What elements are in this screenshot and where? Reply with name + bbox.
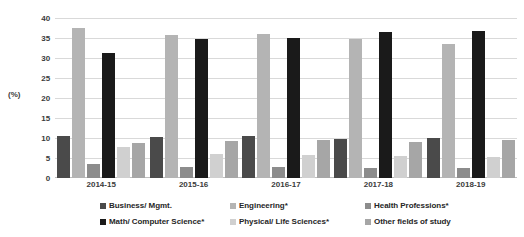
legend-item[interactable]: Physical/ Life Sciences*	[230, 217, 329, 226]
bar	[409, 142, 422, 178]
legend-row-2: Math/ Computer Science*Physical/ Life Sc…	[0, 214, 524, 229]
legend-label: Math/ Computer Science*	[109, 217, 204, 226]
bar	[102, 53, 115, 178]
bar	[457, 168, 470, 178]
y-axis-tick-label: 0	[6, 174, 50, 183]
bar-group	[332, 18, 424, 178]
bar	[287, 38, 300, 178]
chart-legend: Business/ Mgmt.Engineering*Health Profes…	[0, 198, 524, 232]
legend-label: Engineering*	[239, 201, 288, 210]
legend-label: Physical/ Life Sciences*	[239, 217, 329, 226]
y-axis-tick-label: 35	[6, 34, 50, 43]
bar	[472, 31, 485, 178]
x-axis-tick-label: 2016-17	[271, 180, 300, 189]
legend-row-1: Business/ Mgmt.Engineering*Health Profes…	[0, 198, 524, 213]
bar	[349, 39, 362, 178]
legend-swatch-icon	[365, 219, 371, 225]
bar	[117, 147, 130, 178]
bar	[317, 140, 330, 178]
x-axis-tick-label: 2017-18	[364, 180, 393, 189]
bar	[334, 139, 347, 178]
legend-swatch-icon	[100, 219, 106, 225]
bar-group	[147, 18, 239, 178]
legend-item[interactable]: Other fields of study	[365, 217, 451, 226]
legend-label: Health Professions*	[374, 201, 449, 210]
y-axis-tick-label: 15	[6, 114, 50, 123]
bar	[165, 35, 178, 178]
bar	[302, 155, 315, 178]
bar	[242, 136, 255, 178]
legend-item[interactable]: Math/ Computer Science*	[100, 217, 204, 226]
x-axis: 2014-152015-162016-172017-182018-19	[55, 180, 517, 194]
legend-item[interactable]: Health Professions*	[365, 201, 449, 210]
bar	[57, 136, 70, 178]
bar	[487, 157, 500, 178]
bar	[442, 44, 455, 178]
bar	[502, 140, 515, 178]
y-axis: 0510152025303540	[0, 18, 50, 178]
bar-group	[425, 18, 517, 178]
x-axis-tick-label: 2018-19	[456, 180, 485, 189]
bar	[72, 28, 85, 178]
bar	[132, 143, 145, 178]
bar	[225, 141, 238, 178]
y-axis-tick-label: 40	[6, 14, 50, 23]
y-axis-tick-label: 10	[6, 134, 50, 143]
bar	[394, 156, 407, 178]
bar-chart: (%) 0510152025303540 2014-152015-162016-…	[0, 0, 524, 237]
bar	[87, 164, 100, 178]
bar	[257, 34, 270, 178]
y-axis-tick-label: 30	[6, 54, 50, 63]
bar	[195, 39, 208, 178]
x-axis-tick-label: 2015-16	[179, 180, 208, 189]
legend-label: Other fields of study	[374, 217, 451, 226]
bar-group	[240, 18, 332, 178]
bar	[210, 154, 223, 178]
plot-area	[55, 18, 517, 178]
bar	[180, 167, 193, 178]
legend-label: Business/ Mgmt.	[109, 201, 172, 210]
legend-item[interactable]: Business/ Mgmt.	[100, 201, 172, 210]
bar	[364, 168, 377, 178]
bar	[427, 138, 440, 178]
bar	[379, 32, 392, 178]
y-axis-tick-label: 25	[6, 74, 50, 83]
legend-swatch-icon	[100, 203, 106, 209]
y-axis-tick-label: 5	[6, 154, 50, 163]
legend-swatch-icon	[230, 219, 236, 225]
y-axis-tick-label: 20	[6, 94, 50, 103]
bar-group	[55, 18, 147, 178]
bar	[272, 167, 285, 178]
x-axis-tick-label: 2014-15	[87, 180, 116, 189]
bar	[150, 137, 163, 178]
legend-swatch-icon	[365, 203, 371, 209]
legend-item[interactable]: Engineering*	[230, 201, 288, 210]
legend-swatch-icon	[230, 203, 236, 209]
